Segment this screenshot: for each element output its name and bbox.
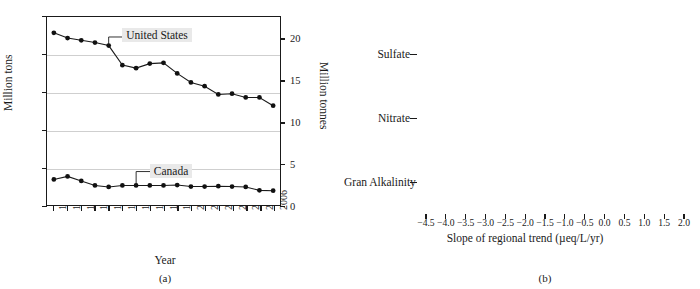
data-point: [271, 103, 276, 108]
data-point: [147, 183, 152, 188]
x-tick-mark: [525, 214, 526, 219]
x-tick-mark: [191, 206, 192, 211]
category-tick: [410, 54, 417, 55]
figure-container: Million tons Million tonnes 0510152025 0…: [0, 0, 700, 289]
y-tick-label-right: 10: [290, 117, 301, 128]
data-point: [120, 63, 125, 68]
y-axis-title-right: Million tonnes: [318, 62, 330, 129]
annotation-leader: [136, 172, 150, 186]
data-point: [79, 179, 84, 184]
y-tick-label-right: 20: [290, 33, 301, 44]
x-tick-mark: [260, 206, 261, 211]
series-label-united-states: United States: [122, 28, 192, 42]
data-point: [93, 40, 98, 45]
data-point: [65, 174, 70, 179]
data-point: [189, 80, 194, 85]
x-tick-mark: [465, 214, 466, 219]
data-point: [79, 38, 84, 43]
y-axis-title-left: Million tons: [2, 54, 14, 111]
x-tick-mark: [94, 206, 95, 211]
data-point: [175, 183, 180, 188]
x-tick-mark: [246, 206, 247, 211]
panel-a-line-chart: Million tons Million tonnes 0510152025 0…: [0, 0, 350, 289]
data-point: [216, 92, 221, 97]
y-tick-label-right: 0: [290, 201, 295, 212]
x-axis-title-b: Slope of regional trend (µeq/L/yr): [350, 232, 700, 244]
data-point: [216, 184, 221, 189]
data-point: [147, 61, 152, 66]
x-tick-mark: [644, 214, 645, 219]
data-point: [134, 66, 139, 71]
x-axis-title-a: Year: [0, 254, 330, 266]
data-point: [243, 95, 248, 100]
data-point: [257, 188, 262, 193]
data-point: [120, 183, 125, 188]
category-tick: [410, 182, 417, 183]
panel-b-caption: (b): [410, 272, 680, 284]
category-tick: [410, 118, 417, 119]
data-point: [106, 185, 111, 190]
y-tick-label-right: 15: [290, 75, 301, 86]
data-point: [175, 71, 180, 76]
panel-b-bar-chart: SulfateNitrateGran Alkalinity −4.5−4.0−3…: [350, 0, 700, 289]
x-tick-mark: [67, 206, 68, 211]
x-tick-mark: [564, 214, 565, 219]
x-tick-mark: [205, 206, 206, 211]
data-point: [161, 60, 166, 65]
x-tick-mark: [150, 206, 151, 211]
data-point: [230, 184, 235, 189]
x-tick-mark: [664, 214, 665, 219]
x-tick-mark: [122, 206, 123, 211]
x-tick-mark: [53, 206, 54, 211]
x-tick-mark: [81, 206, 82, 211]
x-tick-mark: [544, 214, 545, 219]
series-label-canada: Canada: [150, 164, 192, 178]
annotation-leader: [109, 37, 123, 46]
data-point: [202, 84, 207, 89]
data-point: [202, 184, 207, 189]
x-tick-mark: [584, 214, 585, 219]
x-tick-mark: [136, 206, 137, 211]
data-point: [51, 30, 56, 35]
data-point: [65, 36, 70, 41]
line-united-states: [54, 33, 273, 106]
x-tick-mark: [505, 214, 506, 219]
panel-a-caption: (a): [0, 272, 330, 284]
data-point: [230, 91, 235, 96]
data-point: [257, 95, 262, 100]
x-tick-mark: [683, 214, 684, 219]
x-tick-mark: [233, 206, 234, 211]
category-label-sulfate: Sulfate: [344, 48, 410, 60]
x-tick-mark: [108, 206, 109, 211]
x-tick-mark: [445, 214, 446, 219]
category-label-gran-alkalinity: Gran Alkalinity: [344, 176, 410, 188]
x-tick-mark: [624, 214, 625, 219]
x-tick-mark: [425, 214, 426, 219]
data-point: [243, 185, 248, 190]
category-label-nitrate: Nitrate: [344, 112, 410, 124]
data-point: [93, 183, 98, 188]
x-tick-mark: [274, 206, 275, 211]
x-tick-mark: [164, 206, 165, 211]
x-tick-mark: [485, 214, 486, 219]
y-tick-label-right: 5: [290, 159, 295, 170]
y-tick-mark-left: [42, 206, 47, 207]
data-point: [189, 184, 194, 189]
data-point: [51, 177, 56, 182]
x-tick-mark: [219, 206, 220, 211]
x-tick-mark: [177, 206, 178, 211]
x-tick-mark: [604, 214, 605, 219]
data-point: [161, 183, 166, 188]
data-point: [271, 188, 276, 193]
